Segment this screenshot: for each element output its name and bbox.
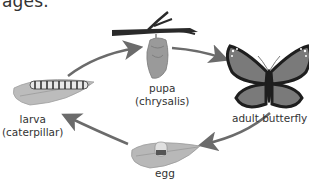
caterpillar-on-leaf-icon: [13, 80, 94, 105]
arrow-pupa-to-adult: [172, 48, 222, 58]
pupa-label: pupa (chrysalis): [135, 82, 189, 108]
larva-label: larva (caterpillar): [2, 113, 63, 139]
egg-on-leaf-icon: [131, 142, 200, 168]
butterfly-icon: [227, 46, 309, 107]
adult-butterfly-label: adult butterfly: [232, 112, 307, 125]
arrow-larva-to-pupa: [68, 48, 136, 76]
egg-label: egg: [155, 167, 175, 180]
chrysalis-on-branch-icon: [112, 12, 198, 78]
arrow-egg-to-larva: [68, 117, 128, 144]
life-cycle-diagram: ages.: [0, 0, 309, 182]
